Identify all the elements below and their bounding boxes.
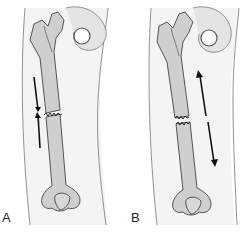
femur-distraction-diagram xyxy=(123,0,246,232)
panel-label-b: B xyxy=(131,210,140,225)
femur-compression-diagram xyxy=(0,0,123,232)
panel-a: A xyxy=(0,0,123,232)
panel-b: B xyxy=(123,0,246,232)
panel-label-a: A xyxy=(2,210,11,225)
